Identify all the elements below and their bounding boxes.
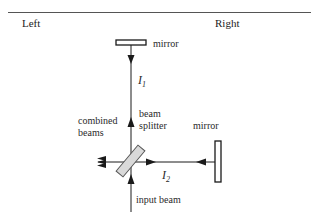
input-beam-label: input beam (136, 194, 181, 205)
input-arrow-up-icon (128, 174, 135, 184)
right-mirror-label: mirror (193, 120, 219, 131)
interferometer-diagram: mirror I1 mirror I2 beam splitter combin… (0, 0, 319, 220)
combined-beams-label-line1: combined (78, 115, 117, 126)
beam-splitter-label-line2: splitter (139, 120, 167, 131)
top-mirror (116, 40, 146, 45)
arrow-left-icon (196, 159, 206, 166)
combined-beams-arrows-icon (97, 156, 106, 168)
beam-splitter-label-line1: beam (139, 108, 161, 119)
intensity-1-label: I1 (137, 73, 146, 89)
top-mirror-label: mirror (153, 38, 179, 49)
right-mirror (215, 141, 221, 182)
intensity-2-label: I2 (161, 168, 170, 184)
arrow-up-icon (128, 117, 135, 127)
arrow-right-icon (146, 159, 156, 166)
arrow-down-icon (128, 55, 135, 64)
combined-beams-label-line2: beams (78, 127, 104, 138)
